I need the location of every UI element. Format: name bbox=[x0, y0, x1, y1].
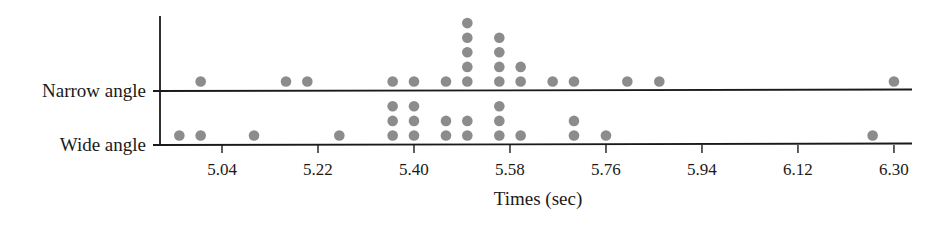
data-dot bbox=[302, 76, 313, 87]
data-dot bbox=[409, 116, 420, 127]
data-dot bbox=[494, 130, 505, 141]
data-dot bbox=[409, 130, 420, 141]
data-dot bbox=[462, 47, 473, 58]
data-dot bbox=[494, 101, 505, 112]
x-tick-label: 5.76 bbox=[591, 160, 621, 179]
data-dot bbox=[409, 101, 420, 112]
data-dot bbox=[195, 76, 206, 87]
axes bbox=[153, 16, 912, 153]
data-dot bbox=[462, 76, 473, 87]
data-dot bbox=[569, 130, 580, 141]
data-dot bbox=[494, 47, 505, 58]
data-dots bbox=[174, 18, 899, 141]
data-dot bbox=[867, 130, 878, 141]
category-label: Wide angle bbox=[60, 134, 146, 155]
data-dot bbox=[547, 76, 558, 87]
x-tick-label: 5.58 bbox=[495, 160, 525, 179]
data-dot bbox=[174, 130, 185, 141]
data-dot bbox=[515, 62, 526, 73]
data-dot bbox=[334, 130, 345, 141]
data-dot bbox=[515, 76, 526, 87]
data-dot bbox=[622, 76, 633, 87]
data-dot bbox=[441, 116, 452, 127]
baseline-narrow bbox=[153, 90, 912, 92]
data-dot bbox=[462, 130, 473, 141]
x-axis-title: Times (sec) bbox=[494, 188, 583, 210]
data-dot bbox=[494, 76, 505, 87]
baseline-wide bbox=[153, 144, 912, 146]
data-dot bbox=[601, 130, 612, 141]
x-tick-label: 6.12 bbox=[783, 160, 813, 179]
data-dot bbox=[249, 130, 260, 141]
data-dot bbox=[462, 18, 473, 29]
data-dot bbox=[654, 76, 665, 87]
data-dot bbox=[441, 76, 452, 87]
data-dot bbox=[494, 32, 505, 43]
data-dot bbox=[281, 76, 292, 87]
data-dot bbox=[409, 76, 420, 87]
category-label: Narrow angle bbox=[42, 80, 146, 101]
data-dot bbox=[387, 101, 398, 112]
data-dot bbox=[195, 130, 206, 141]
data-dot bbox=[462, 62, 473, 73]
data-dot bbox=[462, 32, 473, 43]
data-dot bbox=[387, 130, 398, 141]
data-dot bbox=[494, 116, 505, 127]
x-tick-label: 6.30 bbox=[879, 160, 909, 179]
data-dot bbox=[569, 116, 580, 127]
x-tick-label: 5.04 bbox=[207, 160, 237, 179]
data-dot bbox=[387, 76, 398, 87]
data-dot bbox=[515, 130, 526, 141]
data-dot bbox=[462, 116, 473, 127]
data-dot bbox=[569, 76, 580, 87]
x-tick-label: 5.22 bbox=[303, 160, 333, 179]
dot-plot-chart: Narrow angleWide angle5.045.225.405.585.… bbox=[0, 0, 931, 225]
data-dot bbox=[494, 62, 505, 73]
data-dot bbox=[387, 116, 398, 127]
x-tick-label: 5.94 bbox=[687, 160, 717, 179]
x-tick-label: 5.40 bbox=[399, 160, 429, 179]
data-dot bbox=[889, 76, 900, 87]
data-dot bbox=[441, 130, 452, 141]
